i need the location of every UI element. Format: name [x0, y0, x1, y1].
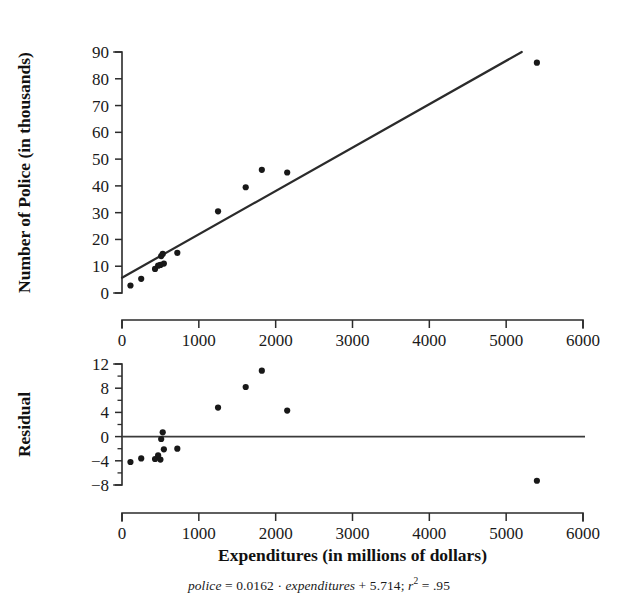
x-axis-title: Expenditures (in millions of dollars) — [218, 545, 487, 565]
residual-x-ticklabel: 0 — [118, 524, 127, 543]
scatter-y-ticklabel: 60 — [92, 123, 109, 142]
scatter-x-ticklabel: 5000 — [489, 331, 523, 348]
residual-x-ticklabel: 4000 — [412, 524, 446, 543]
scatter-data-point — [174, 250, 180, 256]
scatter-x-ticklabel: 1000 — [182, 331, 216, 348]
scatter-y-ticklabel: 40 — [92, 177, 109, 196]
scatter-data-point — [243, 184, 249, 190]
residual-x-ticklabel: 6000 — [566, 524, 600, 543]
scatter-y-axis-line — [114, 52, 122, 293]
scatter-data-point — [127, 282, 133, 288]
scatter-x-ticklabel: 3000 — [336, 331, 370, 348]
residual-y-ticklabel: 4 — [101, 403, 110, 422]
caption-response-variable: police — [188, 578, 222, 593]
residual-plot: 12840−4−80100020003000400050006000Residu… — [0, 348, 638, 578]
scatter-x-ticklabel: 4000 — [412, 331, 446, 348]
residual-y-axis-title: Residual — [14, 392, 34, 457]
scatter-x-ticklabel: 6000 — [566, 331, 600, 348]
scatter-y-ticklabel: 70 — [92, 97, 109, 116]
caption-predictor-variable: expenditures — [285, 578, 355, 593]
scatter-x-ticklabel: 2000 — [259, 331, 293, 348]
scatter-data-point — [138, 276, 144, 282]
regression-figure: 0102030405060708090010002000300040005000… — [0, 0, 638, 608]
scatter-data-point — [534, 60, 540, 66]
residual-data-point — [161, 446, 167, 452]
scatter-x-ticklabel: 0 — [118, 331, 127, 348]
residual-data-point — [158, 436, 164, 442]
scatter-data-point — [215, 208, 221, 214]
residual-data-point — [138, 455, 144, 461]
residual-data-point — [174, 446, 180, 452]
scatter-y-ticklabel: 20 — [92, 230, 109, 249]
residual-data-point — [284, 407, 290, 413]
residual-data-point — [243, 384, 249, 390]
residual-y-ticklabel: 8 — [101, 379, 110, 398]
caption-equation-tail: + 5.714; — [355, 578, 408, 593]
residual-y-ticklabel: −8 — [91, 476, 109, 495]
scatter-data-point — [284, 169, 290, 175]
caption-r-value: = .95 — [418, 578, 450, 593]
residual-data-point — [127, 459, 133, 465]
residual-data-point — [157, 456, 163, 462]
residual-x-ticklabel: 2000 — [259, 524, 293, 543]
scatter-y-axis-title: Number of Police (in thousands) — [14, 52, 34, 293]
regression-line — [122, 52, 522, 278]
scatter-y-ticklabel: 30 — [92, 204, 109, 223]
residual-data-point — [160, 429, 166, 435]
scatter-y-ticklabel: 10 — [92, 257, 109, 276]
residual-y-ticklabel: 12 — [92, 355, 109, 374]
scatter-y-ticklabel: 0 — [101, 284, 110, 303]
residual-x-ticklabel: 3000 — [336, 524, 370, 543]
scatter-plot: 0102030405060708090010002000300040005000… — [0, 0, 638, 348]
regression-equation-caption: police = 0.0162 · expenditures + 5.714; … — [0, 576, 638, 594]
scatter-data-point — [161, 260, 167, 266]
scatter-y-ticklabel: 50 — [92, 150, 109, 169]
scatter-data-point — [160, 251, 166, 257]
scatter-y-ticklabel: 80 — [92, 70, 109, 89]
residual-data-point — [259, 368, 265, 374]
residual-y-ticklabel: −4 — [91, 452, 110, 471]
residual-data-point — [534, 478, 540, 484]
residual-x-ticklabel: 5000 — [489, 524, 523, 543]
residual-y-ticklabel: 0 — [101, 428, 110, 447]
residual-x-ticklabel: 1000 — [182, 524, 216, 543]
residual-data-point — [215, 404, 221, 410]
scatter-data-point — [259, 167, 265, 173]
caption-equation-middle: = 0.0162 · — [222, 578, 286, 593]
scatter-y-ticklabel: 90 — [92, 43, 109, 62]
